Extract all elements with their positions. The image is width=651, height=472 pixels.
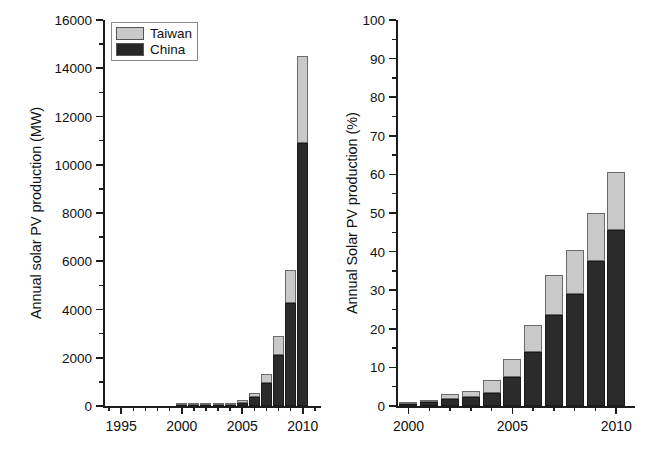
y-tick-major [96, 116, 103, 118]
y-tick-label: 70 [370, 128, 385, 143]
x-tick-minor [229, 406, 230, 411]
bar-segment-china [503, 377, 521, 406]
y-tick-minor [99, 285, 103, 286]
y-tick-minor [392, 39, 396, 40]
x-tick-label: 2005 [227, 418, 258, 434]
bar-segment-china [545, 315, 563, 406]
y-tick-major [389, 19, 396, 21]
x-tick-minor [429, 406, 430, 411]
bar-segment-taiwan [503, 359, 521, 378]
y-tick-minor [392, 386, 396, 387]
x-tick-major [302, 406, 304, 414]
x-tick-label: 2005 [497, 418, 528, 434]
x-tick-minor [449, 406, 450, 411]
x-tick-minor [169, 406, 170, 411]
y-tick-major [96, 19, 103, 21]
bar-segment-taiwan [441, 394, 459, 398]
stacked-bar [587, 213, 605, 406]
y-tick-minor [392, 309, 396, 310]
y-tick-minor [392, 232, 396, 233]
plot-area-mw [103, 20, 321, 406]
bar-segment-china [273, 355, 284, 406]
x-tick-minor [145, 406, 146, 411]
y-tick-label: 30 [370, 283, 385, 298]
stacked-bar [566, 250, 584, 406]
y-tick-major [389, 135, 396, 137]
bar-segment-china [524, 352, 542, 406]
y-tick-minor [99, 92, 103, 93]
y-tick-minor [99, 43, 103, 44]
x-tick-label: 2000 [393, 418, 424, 434]
y-tick-major [96, 405, 103, 407]
y-tick-minor [99, 236, 103, 237]
bar-segment-china [261, 383, 272, 406]
y-tick-label: 40 [370, 244, 385, 259]
bar-segment-china [566, 294, 584, 406]
y-tick-label: 2000 [62, 350, 92, 365]
x-tick-minor [205, 406, 206, 411]
y-tick-label: 0 [377, 399, 385, 414]
y-tick-major [96, 67, 103, 69]
x-tick-minor [532, 406, 533, 411]
stacked-bar [285, 270, 296, 406]
bar-segment-taiwan [462, 391, 480, 397]
legend-label-taiwan: Taiwan [150, 27, 192, 40]
y-tick-label: 10 [370, 360, 385, 375]
x-tick-label: 2010 [601, 418, 632, 434]
y-tick-major [389, 96, 396, 98]
bar-segment-china [441, 399, 459, 406]
y-axis-line-mw [103, 20, 105, 406]
x-tick-major [615, 406, 617, 414]
y-axis-label-pct: Annual Solar PV production (%) [344, 112, 360, 314]
y-tick-label: 0 [84, 399, 92, 414]
x-tick-major [181, 406, 183, 414]
bar-segment-china [587, 261, 605, 406]
bar-segment-china [285, 303, 296, 406]
y-tick-label: 12000 [54, 109, 92, 124]
bar-segment-taiwan [261, 374, 272, 383]
y-tick-major [96, 357, 103, 359]
bar-group-pct [396, 20, 635, 406]
x-tick-major [120, 406, 122, 414]
stacked-bar [297, 56, 308, 406]
y-tick-label: 16000 [54, 13, 92, 28]
y-tick-label: 4000 [62, 302, 92, 317]
y-tick-minor [392, 193, 396, 194]
bar-segment-taiwan [188, 403, 199, 405]
china-swatch-icon [116, 43, 144, 56]
y-tick-major [389, 405, 396, 407]
bar-segment-taiwan [225, 403, 236, 405]
x-tick-minor [278, 406, 279, 411]
y-axis-line-pct [396, 20, 398, 406]
y-tick-minor [392, 116, 396, 117]
x-tick-minor [254, 406, 255, 411]
y-tick-label: 100 [362, 13, 385, 28]
stacked-bar [545, 275, 563, 406]
x-tick-minor [491, 406, 492, 411]
bar-segment-taiwan [420, 400, 438, 402]
stacked-bar [607, 172, 625, 406]
y-tick-major [389, 367, 396, 369]
bar-segment-taiwan [273, 336, 284, 355]
x-tick-minor [574, 406, 575, 411]
bar-segment-taiwan [566, 250, 584, 294]
x-tick-minor [470, 406, 471, 411]
bar-segment-taiwan [399, 402, 417, 404]
x-tick-minor [108, 406, 109, 411]
y-tick-label: 10000 [54, 157, 92, 172]
x-tick-minor [314, 406, 315, 411]
bar-segment-china [297, 143, 308, 406]
stacked-bar [249, 393, 260, 406]
legend-item-taiwan: Taiwan [116, 26, 192, 41]
y-tick-major [96, 212, 103, 214]
y-tick-minor [99, 381, 103, 382]
bar-segment-taiwan [176, 403, 187, 405]
bar-segment-taiwan [285, 270, 296, 303]
y-tick-major [389, 174, 396, 176]
stacked-bar [441, 394, 459, 406]
y-tick-label: 14000 [54, 61, 92, 76]
legend-label-china: China [150, 43, 185, 56]
bar-segment-taiwan [237, 400, 248, 403]
y-tick-label: 50 [370, 206, 385, 221]
bar-segment-china [462, 397, 480, 406]
